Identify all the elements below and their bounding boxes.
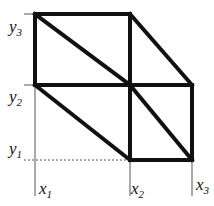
axis-label-y1-sub: 1	[17, 148, 23, 160]
diagonal-lower-left	[35, 85, 130, 160]
axis-label-x2: x2	[131, 180, 144, 200]
mesh-diagram	[0, 0, 214, 206]
axis-label-y1-base: y	[9, 139, 17, 158]
axis-label-x3: x3	[196, 176, 209, 196]
axis-label-x2-base: x	[131, 179, 139, 198]
axis-label-x2-sub: 2	[139, 188, 145, 200]
axis-label-y3-sub: 3	[17, 26, 23, 38]
axis-label-y2-base: y	[9, 87, 17, 106]
diagonal-lower-right	[130, 85, 192, 160]
axis-label-x1: x1	[39, 180, 52, 200]
diagonal-upper-left	[35, 14, 130, 85]
figure-canvas: y3 y2 y1 x1 x2 x3	[0, 0, 214, 206]
mesh-edges-group	[35, 14, 192, 160]
thin-lines-group	[24, 14, 192, 196]
diagonal-upper-right	[130, 14, 192, 85]
axis-label-x1-sub: 1	[47, 188, 53, 200]
axis-label-x3-sub: 3	[204, 184, 210, 196]
axis-label-x1-base: x	[39, 179, 47, 198]
axis-label-x3-base: x	[196, 175, 204, 194]
axis-label-y3: y3	[9, 18, 22, 38]
axis-label-y2-sub: 2	[17, 96, 23, 108]
axis-label-y3-base: y	[9, 17, 17, 36]
axis-label-y2: y2	[9, 88, 22, 108]
axis-label-y1: y1	[9, 140, 22, 160]
